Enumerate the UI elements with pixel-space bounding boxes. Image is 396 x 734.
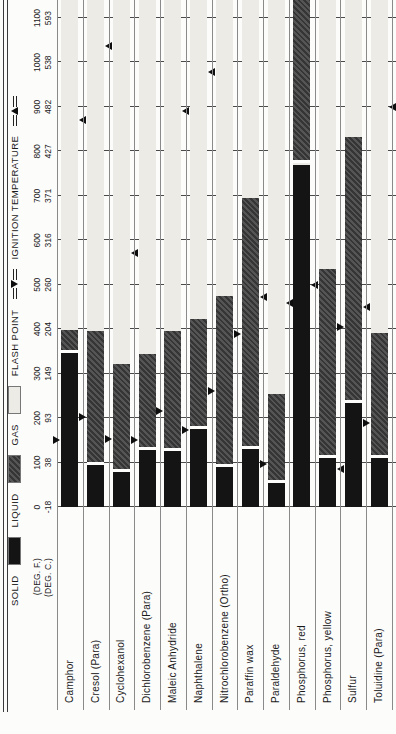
tick-label-f: 0 — [32, 487, 42, 527]
top-rule-outer — [3, 0, 4, 712]
chemical-name: Phosphorus, yellow — [322, 511, 333, 703]
solid-segment — [190, 429, 207, 507]
flash-point-marker — [156, 407, 163, 415]
tick-label-c: 260 — [43, 265, 53, 305]
liquid-segment — [139, 354, 156, 450]
solid-segment — [345, 403, 362, 507]
solid-segment — [293, 165, 310, 507]
flash-point-marker — [79, 413, 86, 421]
ignition-temperature-arrow-icon — [11, 96, 18, 126]
gas-swatch — [8, 386, 21, 414]
row-separator — [237, 0, 238, 710]
liquid-segment — [242, 198, 259, 449]
flash-point-marker — [208, 387, 215, 395]
chemical-name: Naphthalene — [193, 511, 204, 703]
tick-label-c: 593 — [43, 0, 53, 38]
solid-segment — [371, 458, 388, 507]
row-separator — [134, 0, 135, 710]
axis-units: (DEG. F.) (DEG. C.) — [32, 558, 53, 636]
liquid-segment — [61, 330, 78, 353]
chemical-name: Maleic Anhydride — [167, 511, 178, 703]
tick-label-f: 200 — [32, 398, 42, 438]
tick-label-f: 1000 — [32, 43, 42, 83]
chemical-name: Camphor — [64, 511, 75, 703]
chart-canvas: SOLID LIQUID GAS FLASH POINT IGNITION TE… — [0, 0, 396, 734]
legend-liquid-label: LIQUID — [9, 493, 20, 527]
row-separator — [83, 0, 84, 710]
solid-segment — [216, 467, 233, 507]
solid-segment — [87, 465, 104, 507]
solid-swatch — [8, 537, 21, 565]
axis-unit-f: (DEG. F.) — [32, 558, 43, 636]
tick-label-f: 600 — [32, 220, 42, 260]
solid-segment — [139, 450, 156, 507]
row-separator — [340, 0, 341, 710]
tick-label-f: 100 — [32, 443, 42, 483]
chemical-name: Cresol (Para) — [90, 511, 101, 703]
flash-point-arrow-icon — [11, 269, 18, 299]
flash-point-marker — [131, 436, 138, 444]
tick-label-c: 149 — [43, 354, 53, 394]
row-separator — [186, 0, 187, 710]
solid-segment — [113, 472, 130, 507]
chemical-name: Sulfur — [347, 511, 358, 703]
row-separator — [160, 0, 161, 710]
liquid-segment — [319, 269, 336, 458]
solid-segment — [268, 483, 285, 507]
axis-unit-c: (DEG. C.) — [43, 558, 54, 636]
tick-label-f: 500 — [32, 265, 42, 305]
chemical-name: Paraffin wax — [244, 511, 255, 703]
tick-label-c: 538 — [43, 43, 53, 83]
liquid-segment — [371, 333, 388, 458]
page: SOLID LIQUID GAS FLASH POINT IGNITION TE… — [0, 0, 396, 734]
tick-label-c: -18 — [43, 487, 53, 527]
tick-label-f: 1100 — [32, 0, 42, 38]
tick-label-f: 800 — [32, 131, 42, 171]
chemical-name: Toluidine (Para) — [373, 511, 384, 703]
liquid-segment — [345, 137, 362, 402]
tick-label-c: 93 — [43, 398, 53, 438]
tick-label-c: 427 — [43, 131, 53, 171]
legend-ignition-label: IGNITION TEMPERATURE — [9, 136, 20, 260]
legend-gas-label: GAS — [9, 424, 20, 445]
tick-label-c: 482 — [43, 87, 53, 127]
flash-point-marker — [337, 323, 344, 331]
legend-solid-label: SOLID — [9, 575, 20, 606]
row-separator — [289, 0, 290, 710]
liquid-segment — [87, 331, 104, 464]
tick-label-c: 316 — [43, 220, 53, 260]
liquid-swatch — [8, 455, 21, 483]
chemical-name: Phosphorus, red — [296, 511, 307, 703]
chemical-name: Paraldehyde — [270, 511, 281, 703]
flash-point-marker — [182, 426, 189, 434]
chemical-name: Cyclohexanol — [115, 511, 126, 703]
tick-label-f: 700 — [32, 176, 42, 216]
row-separator — [212, 0, 213, 710]
liquid-segment — [293, 0, 310, 162]
tick-label-c: 371 — [43, 176, 53, 216]
row-separator — [57, 0, 58, 710]
flash-point-marker — [105, 435, 112, 443]
solid-segment — [164, 451, 181, 507]
solid-segment — [61, 353, 78, 507]
flash-point-marker — [363, 419, 370, 427]
flash-point-marker — [53, 436, 60, 444]
row-separator — [109, 0, 110, 710]
tick-label-c: 204 — [43, 309, 53, 349]
chemical-name: Dichlorobenzene (Para) — [141, 511, 152, 703]
tick-label-f: 300 — [32, 354, 42, 394]
legend: SOLID LIQUID GAS FLASH POINT IGNITION TE… — [7, 96, 22, 606]
chart-bottom-border — [392, 0, 393, 710]
liquid-segment — [216, 296, 233, 467]
flash-point-marker — [234, 330, 241, 338]
solid-segment — [319, 458, 336, 507]
flash-point-marker — [260, 460, 267, 468]
liquid-segment — [268, 394, 285, 483]
tick-label-c: 38 — [43, 443, 53, 483]
legend-flash-label: FLASH POINT — [9, 309, 20, 376]
tick-label-f: 900 — [32, 87, 42, 127]
liquid-segment — [190, 319, 207, 429]
row-separator — [366, 0, 367, 710]
liquid-segment — [164, 331, 181, 451]
row-separator — [263, 0, 264, 710]
